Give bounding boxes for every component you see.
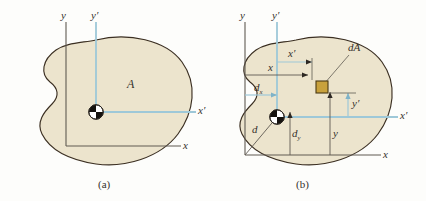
centroid-marker-a [89, 105, 103, 119]
axis-label-xprime-a: x′ [198, 105, 205, 116]
figure-canvas [0, 0, 426, 201]
dimension-label-d: d [252, 124, 258, 135]
dimension-label-y: y [333, 128, 338, 139]
axis-label-x-a: x [183, 140, 188, 151]
caption-b: (b) [296, 178, 309, 190]
axis-label-yprime-a: y′ [91, 10, 98, 21]
dimension-label-dy: dy [292, 128, 301, 142]
centroid-marker-b [270, 110, 284, 124]
dimension-label-x: x [268, 62, 273, 73]
dimension-label-dx: dx [254, 82, 263, 96]
element-label-dA: dA [348, 42, 360, 53]
caption-a: (a) [98, 178, 110, 190]
axis-label-yprime-b: y′ [272, 10, 279, 21]
axis-label-y-a: y [61, 10, 66, 21]
area-element-dA [316, 81, 328, 93]
axis-label-y-b: y [240, 10, 245, 21]
dimension-label-dx-sub: x [260, 88, 263, 95]
dimension-label-yprime: y′ [352, 98, 359, 109]
dimension-label-xprime: x′ [288, 48, 295, 59]
dimension-label-dy-sub: y [298, 134, 301, 141]
axis-label-xprime-b: x′ [400, 110, 407, 121]
area-label-a: A [127, 78, 134, 90]
axis-label-x-b: x [383, 149, 388, 160]
